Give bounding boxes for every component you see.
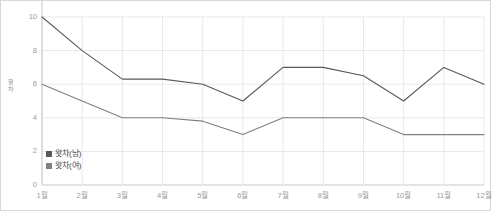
y-tick-label: 4: [13, 114, 37, 122]
chart-legend: 왓차(남)왓차(여): [46, 149, 81, 171]
x-tick-label: 6월: [223, 191, 263, 201]
y-tick-label: 10: [13, 13, 37, 21]
x-tick-label: 11월: [424, 191, 464, 201]
y-tick-label: 0: [13, 181, 37, 189]
legend-label: 왓차(여): [55, 161, 81, 171]
x-tick-label: 2월: [62, 191, 102, 201]
legend-swatch-icon: [46, 151, 52, 157]
y-tick-label: 8: [13, 47, 37, 55]
x-tick-label: 3월: [102, 191, 142, 201]
legend-swatch-icon: [46, 163, 52, 169]
x-tick-label: 7월: [263, 191, 303, 201]
series-lines: [42, 17, 484, 185]
plot-area: [42, 17, 484, 185]
series-line: [42, 17, 484, 101]
x-tick-label: 12월: [464, 191, 496, 201]
y-tick-label: 6: [13, 80, 37, 88]
x-tick-label: 1월: [22, 191, 62, 201]
x-tick-label: 9월: [343, 191, 383, 201]
x-tick-label: 5월: [183, 191, 223, 201]
y-tick-label: 2: [13, 147, 37, 155]
legend-label: 왓차(남): [55, 149, 81, 159]
x-tick-label: 10월: [384, 191, 424, 201]
x-tick-label: 8월: [303, 191, 343, 201]
y-axis-tick-labels: 0246810: [9, 17, 37, 185]
x-tick-label: 4월: [143, 191, 183, 201]
x-axis-tick-labels: 1월2월3월4월5월6월7월8월9월10월11월12월: [42, 191, 484, 205]
legend-item[interactable]: 왓차(여): [46, 161, 81, 171]
series-line: [42, 84, 484, 134]
legend-item[interactable]: 왓차(남): [46, 149, 81, 159]
